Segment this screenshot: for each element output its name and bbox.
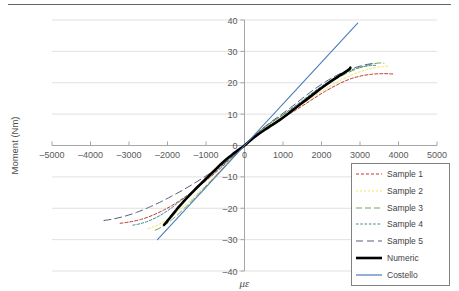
y-tick-label: –20 — [222, 204, 237, 214]
legend-item-label: Sample 5 — [387, 236, 423, 246]
legend-item-label: Sample 3 — [387, 203, 423, 213]
legend-swatch-icon — [356, 270, 382, 280]
x-tick-label: –5000 — [39, 150, 64, 160]
legend-item-label: Numeric — [387, 253, 419, 263]
y-tick-label: 0 — [232, 141, 237, 151]
x-tick-label: –1000 — [193, 150, 218, 160]
x-tick-label: –2000 — [155, 150, 180, 160]
legend-item-sample-5[interactable]: Sample 5 — [354, 234, 446, 248]
legend-item-label: Sample 1 — [387, 169, 423, 179]
legend-item-label: Sample 4 — [387, 219, 423, 229]
legend-swatch-icon — [356, 203, 382, 213]
x-axis-title: με — [239, 277, 251, 289]
series-line-costello — [157, 23, 357, 239]
legend-swatch-icon — [356, 186, 382, 196]
chart-legend: Sample 1Sample 2Sample 3Sample 4Sample 5… — [351, 163, 450, 286]
legend-swatch-icon — [356, 169, 382, 179]
legend-swatch-icon — [356, 219, 382, 229]
x-tick-label: 3000 — [350, 150, 370, 160]
y-tick-label: 10 — [227, 110, 237, 120]
y-tick-label: –10 — [222, 172, 237, 182]
x-tick-label: 4000 — [388, 150, 408, 160]
y-tick-label: 30 — [227, 47, 237, 57]
x-tick-label: –3000 — [116, 150, 141, 160]
x-tick-label: 2000 — [311, 150, 331, 160]
legend-swatch-icon — [356, 253, 382, 263]
legend-item-sample-2[interactable]: Sample 2 — [354, 184, 446, 198]
y-tick-label: 40 — [227, 16, 237, 26]
legend-item-label: Sample 2 — [387, 186, 423, 196]
legend-item-sample-4[interactable]: Sample 4 — [354, 217, 446, 231]
x-tick-label: –4000 — [78, 150, 103, 160]
y-tick-label: –40 — [222, 267, 237, 277]
y-axis-title: Moment (Nm) — [9, 116, 20, 174]
legend-swatch-icon — [356, 236, 382, 246]
legend-item-sample-3[interactable]: Sample 3 — [354, 201, 446, 215]
figure-root: –5000–4000–3000–2000–1000010002000300040… — [0, 0, 459, 291]
series-line-sample-5 — [104, 63, 375, 220]
legend-item-numeric[interactable]: Numeric — [354, 251, 446, 265]
legend-item-label: Costello — [387, 270, 418, 280]
x-tick-label: 0 — [242, 150, 247, 160]
y-tick-label: 20 — [227, 78, 237, 88]
legend-item-sample-1[interactable]: Sample 1 — [354, 167, 446, 181]
series-group — [104, 23, 393, 239]
x-tick-label: 5000 — [427, 150, 447, 160]
x-tick-label: 1000 — [273, 150, 293, 160]
legend-item-costello[interactable]: Costello — [354, 268, 446, 282]
y-tick-label: –30 — [222, 235, 237, 245]
